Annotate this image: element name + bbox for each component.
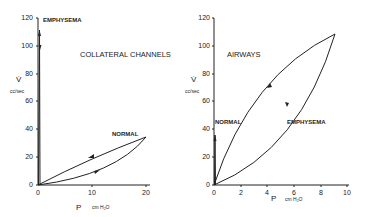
left-x-unit: cm H₂O <box>92 204 110 210</box>
svg-text:120: 120 <box>21 14 33 21</box>
svg-text:0: 0 <box>206 181 210 188</box>
left-chart <box>36 18 150 187</box>
left-labels: 0 20 40 60 80 100 120 0 10 20 V̇ cc/sec … <box>10 14 171 212</box>
svg-text:40: 40 <box>202 125 210 132</box>
right-x-unit: cm H₂O <box>285 196 303 202</box>
right-x-label: P <box>271 194 276 203</box>
left-x-label: P <box>76 203 81 212</box>
chart-canvas: 0 20 40 60 80 100 120 0 10 20 V̇ cc/sec … <box>0 0 366 217</box>
right-y-label: V̇ <box>191 75 197 84</box>
svg-text:80: 80 <box>202 70 210 77</box>
svg-text:40: 40 <box>25 125 33 132</box>
left-y-label: V̇ <box>16 75 22 84</box>
right-normal-curve <box>215 135 216 185</box>
svg-text:20: 20 <box>142 189 150 196</box>
right-chart-title: AIRWAYS <box>227 50 261 59</box>
svg-text:2: 2 <box>239 189 243 196</box>
svg-text:80: 80 <box>25 70 33 77</box>
svg-text:20: 20 <box>25 153 33 160</box>
svg-text:6: 6 <box>292 189 296 196</box>
arrow-right-icon <box>94 170 100 174</box>
svg-text:10: 10 <box>343 189 351 196</box>
svg-text:0: 0 <box>36 189 40 196</box>
arrow-left-icon <box>88 154 94 158</box>
svg-text:8: 8 <box>319 189 323 196</box>
svg-text:60: 60 <box>25 97 33 104</box>
left-y-unit: cc/sec <box>10 88 25 94</box>
svg-text:0: 0 <box>212 189 216 196</box>
svg-text:20: 20 <box>202 153 210 160</box>
svg-text:4: 4 <box>265 189 269 196</box>
left-normal-upper-curve <box>38 137 146 185</box>
svg-text:100: 100 <box>21 42 33 49</box>
left-chart-title: COLLATERAL CHANNELS <box>80 50 171 59</box>
left-normal-lower-curve <box>38 137 146 185</box>
svg-text:60: 60 <box>202 97 210 104</box>
arrow-up-icon <box>285 102 289 107</box>
svg-text:120: 120 <box>198 14 210 21</box>
right-emphysema-label: EMPHYSEMA <box>287 119 326 125</box>
left-normal-label: NORMAL <box>112 131 139 137</box>
right-normal-label: NORMAL <box>215 119 242 125</box>
svg-text:0: 0 <box>29 181 33 188</box>
right-chart <box>212 18 349 187</box>
svg-text:100: 100 <box>198 42 210 49</box>
svg-text:10: 10 <box>88 189 96 196</box>
right-labels: 0 20 40 60 80 100 120 0 2 4 6 8 10 V̇ cc… <box>185 14 351 203</box>
left-emphysema-label: EMPHYSEMA <box>43 17 82 23</box>
right-y-unit: cc/sec <box>185 88 200 94</box>
